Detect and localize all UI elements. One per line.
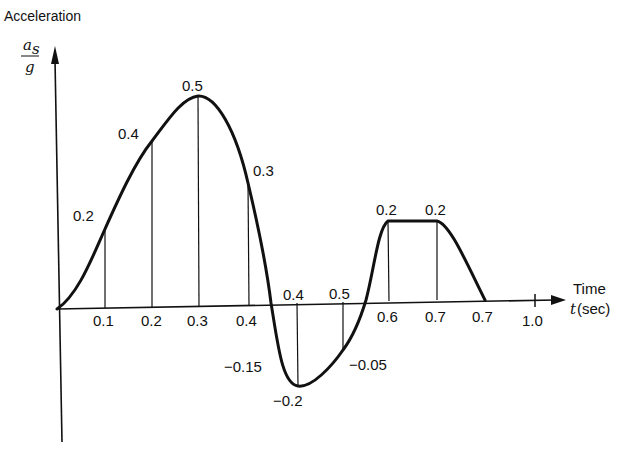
x-axis-arrow-icon [551,295,566,305]
y-axis [55,60,62,442]
x-label: 0.5 [329,285,350,302]
point-label: 0.2 [73,207,94,224]
point-label: 0.3 [253,162,274,179]
x-label: 0.7 [472,308,493,325]
x-axis-unit: (sec) [577,300,610,317]
x-label: 0.4 [236,312,257,329]
y-symbol-numerator: a [23,36,32,54]
point-label: 0.2 [425,201,446,218]
point-label: −0.15 [224,358,262,375]
acceleration-diagram: Acceleration a s g Time t (sec) 1.0 0.1 … [0,0,622,450]
x-label: 0.4 [283,286,304,303]
y-axis-title: Acceleration [4,8,81,24]
x-axis-title: Time [573,280,606,297]
x-label: 0.6 [377,308,398,325]
y-symbol-subscript: s [32,40,40,58]
point-label: −0.05 [349,356,387,373]
point-label: 0.4 [118,125,139,142]
point-label: 0.2 [376,201,397,218]
x-label: 0.1 [93,312,114,329]
point-label: −0.2 [273,392,303,409]
y-symbol-denominator: g [25,58,35,76]
y-axis-arrow-icon [51,46,59,64]
x-label: 0.3 [187,312,208,329]
x-label: 0.7 [425,308,446,325]
x-label: 0.2 [141,312,162,329]
x-tick-label-end: 1.0 [522,312,543,329]
point-labels: 0.2 0.4 0.5 0.3 −0.15 −0.2 −0.05 0.2 0.2 [73,77,446,409]
point-label: 0.5 [182,77,203,94]
x-axis-variable: t [570,300,577,318]
